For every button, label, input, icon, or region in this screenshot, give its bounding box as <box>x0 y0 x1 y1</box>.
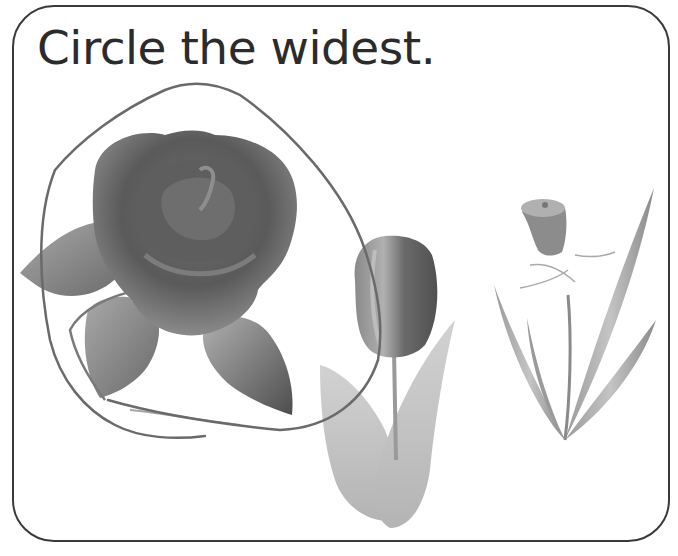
worksheet-illustrations <box>0 0 678 556</box>
tulip-image[interactable] <box>320 236 455 528</box>
daffodil-leaf-short-right <box>565 320 656 440</box>
pencil-tail-mark <box>130 410 240 425</box>
rose-leaf-bottom-right <box>203 316 293 415</box>
daffodil-leaf-tall-right <box>565 188 654 440</box>
daffodil-image[interactable] <box>494 188 656 440</box>
